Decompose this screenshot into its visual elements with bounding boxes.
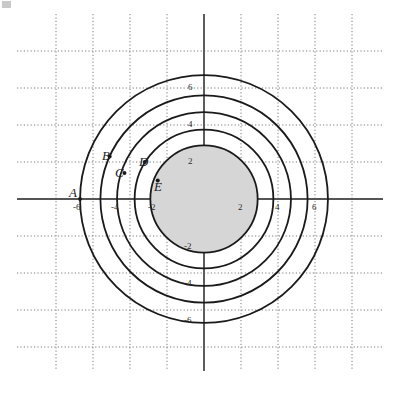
point-label-D: D [139, 155, 148, 168]
x-tick-6: 6 [312, 203, 317, 212]
x-tick-minus2: -2 [148, 203, 156, 212]
y-tick-minus6: -6 [184, 316, 192, 325]
x-tick-minus4: -4 [111, 203, 119, 212]
y-tick-6: 6 [188, 83, 193, 92]
x-tick-minus6: -6 [73, 203, 81, 212]
figure-canvas: -6-4-2246 642-2-4-6 ABCDE [0, 0, 399, 393]
coordinate-plane-plot [0, 0, 399, 393]
x-tick-4: 4 [275, 203, 280, 212]
circle-E [150, 145, 257, 252]
point-label-B: B [102, 149, 110, 162]
y-tick-minus4: -4 [184, 279, 192, 288]
point-label-E: E [154, 180, 162, 193]
point-label-A: A [69, 186, 77, 199]
x-tick-2: 2 [238, 203, 243, 212]
point-label-C: C [115, 166, 124, 179]
y-tick-2: 2 [188, 157, 193, 166]
y-tick-minus2: -2 [184, 242, 192, 251]
point-marker-A [78, 197, 82, 201]
y-tick-4: 4 [188, 120, 193, 129]
circles-layer [80, 75, 328, 323]
